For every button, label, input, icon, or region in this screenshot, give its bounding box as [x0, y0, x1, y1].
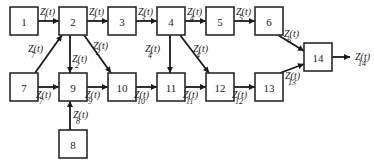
- node-2: 2: [59, 7, 87, 35]
- edge-label: Z(t)14: [355, 51, 371, 68]
- node-11: 11: [157, 73, 185, 101]
- node-12: 12: [206, 73, 234, 101]
- node-label: 3: [119, 16, 125, 28]
- edge-4-to-12: [180, 35, 209, 73]
- node-5: 5: [206, 7, 234, 35]
- edge-label: Z(t)2: [93, 40, 109, 57]
- node-label: 7: [21, 82, 27, 94]
- edge-label: Z(t)9: [85, 89, 101, 106]
- node-7: 7: [10, 73, 38, 101]
- node-9: 9: [59, 73, 87, 101]
- arrow-icon: [180, 35, 209, 73]
- edge-label: Z(t)10: [134, 89, 150, 106]
- node-label: 10: [117, 82, 129, 94]
- arrow-icon: [35, 35, 62, 73]
- node-label: 4: [168, 16, 174, 28]
- edge-label: Z(t)8: [73, 109, 89, 126]
- node-3: 3: [108, 7, 136, 35]
- edge-label: Z(t)4: [193, 43, 209, 60]
- node-14: 14: [304, 43, 332, 71]
- edge-label: Z(t)7: [36, 89, 52, 106]
- node-13: 13: [255, 73, 283, 101]
- network-diagram: 1234567910111213148 Z(t)1Z(t)2Z(t)3Z(t)4…: [0, 0, 374, 164]
- node-10: 10: [108, 73, 136, 101]
- node-label: 2: [70, 16, 76, 28]
- node-label: 5: [217, 16, 223, 28]
- edge-7-to-2: [35, 35, 62, 73]
- node-6: 6: [255, 7, 283, 35]
- node-label: 11: [166, 82, 177, 94]
- node-label: 8: [70, 139, 76, 151]
- node-label: 12: [215, 82, 226, 94]
- node-4: 4: [157, 7, 185, 35]
- edge-label: Z(t)11: [183, 89, 199, 106]
- edge-label: Z(t)7: [28, 43, 44, 60]
- node-label: 9: [70, 82, 76, 94]
- node-label: 6: [266, 16, 272, 28]
- node-label: 13: [264, 82, 276, 94]
- node-label: 1: [21, 16, 27, 28]
- node-label: 14: [313, 52, 325, 64]
- edge-label: Z(t)13: [285, 70, 301, 87]
- edge-label: Z(t)4: [145, 43, 161, 60]
- edge-label: Z(t)12: [232, 89, 248, 106]
- node-8: 8: [59, 130, 87, 158]
- edge-label: Z(t)6: [284, 28, 300, 45]
- node-1: 1: [10, 7, 38, 35]
- edge-label: Z(t)2: [72, 53, 88, 70]
